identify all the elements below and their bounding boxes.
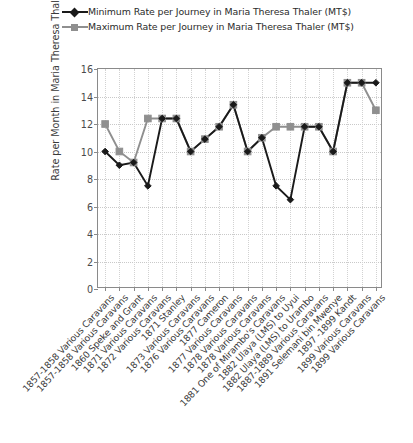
legend-label-maximum: Maximum Rate per Journey in Maria Theres…	[88, 21, 354, 32]
y-axis-tick-label: 10	[81, 146, 93, 157]
y-axis-tick-label: 16	[81, 64, 93, 75]
data-point-minimum	[373, 79, 380, 86]
y-axis-tick-label: 2	[87, 256, 93, 267]
data-point-maximum	[145, 115, 152, 122]
legend-swatch-maximum	[62, 21, 88, 33]
legend-item-minimum: Minimum Rate per Journey in Maria Theres…	[62, 4, 410, 19]
plot-area: 0246810121416	[97, 68, 382, 288]
y-axis-tick-label: 4	[87, 229, 93, 240]
legend-label-minimum: Minimum Rate per Journey in Maria Theres…	[88, 6, 351, 17]
y-axis-tick-label: 6	[87, 201, 93, 212]
data-point-maximum	[273, 123, 280, 130]
x-axis-labels: 1857-1858 Various Caravans1857-1858 Vari…	[0, 292, 413, 442]
data-point-maximum	[102, 121, 109, 128]
data-point-maximum	[116, 148, 123, 155]
legend-swatch-minimum	[62, 6, 88, 18]
data-point-maximum	[287, 123, 294, 130]
chart-figure: Minimum Rate per Journey in Maria Theres…	[0, 0, 413, 443]
y-axis-title: Rate per Month in Maria Theresa Thaler	[50, 0, 61, 201]
square-marker-icon	[71, 24, 78, 31]
y-axis-tick-mark	[94, 289, 98, 290]
diamond-marker-icon	[70, 7, 80, 17]
series-line	[105, 83, 376, 200]
y-axis-tick-label: 8	[87, 174, 93, 185]
chart-legend: Minimum Rate per Journey in Maria Theres…	[62, 4, 410, 34]
data-point-maximum	[373, 107, 380, 114]
y-axis-tick-label: 12	[81, 119, 93, 130]
legend-item-maximum: Maximum Rate per Journey in Maria Theres…	[62, 19, 410, 34]
series-layer	[98, 69, 383, 289]
y-axis-tick-label: 14	[81, 91, 93, 102]
